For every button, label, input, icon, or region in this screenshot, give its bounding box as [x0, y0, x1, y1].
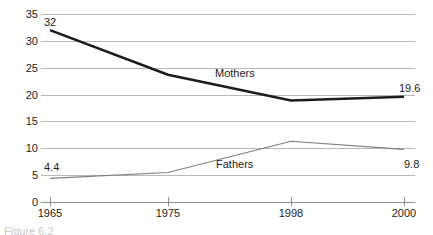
value-label-mothers-start: 32 — [44, 17, 56, 28]
series-label-mothers: Mothers — [215, 68, 255, 79]
series-label-fathers: Fathers — [216, 159, 253, 170]
value-label-fathers-end: 9.8 — [404, 159, 419, 170]
chart-screenshot: 35 30 25 20 15 10 5 0 1965 1975 1998 200… — [0, 0, 433, 235]
series-line-mothers — [50, 30, 404, 100]
value-label-mothers-end: 19.6 — [399, 83, 420, 94]
value-label-fathers-start: 4.4 — [44, 162, 59, 173]
figure-caption: Figure 6.2 — [4, 226, 54, 235]
series-canvas — [0, 0, 433, 235]
